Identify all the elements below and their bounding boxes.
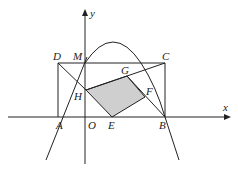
label-a: A — [55, 119, 63, 131]
y-axis-arrow-icon — [82, 9, 88, 16]
label-m: M — [72, 50, 83, 62]
label-g: G — [121, 64, 129, 76]
label-h: H — [73, 90, 83, 102]
line-dhe — [58, 63, 86, 90]
geometry-diagram: y x D M C G H F A O E B — [0, 0, 238, 177]
label-x: x — [222, 101, 228, 113]
label-y: y — [89, 7, 95, 19]
label-d: D — [52, 50, 61, 62]
label-c: C — [162, 50, 170, 62]
shaded-quadrilateral-efgh — [86, 76, 145, 117]
label-b: B — [159, 119, 166, 131]
label-f: F — [145, 85, 153, 97]
label-e: E — [107, 119, 115, 131]
line-am — [46, 57, 87, 160]
label-o: O — [88, 119, 96, 131]
x-axis-arrow-icon — [224, 114, 231, 120]
